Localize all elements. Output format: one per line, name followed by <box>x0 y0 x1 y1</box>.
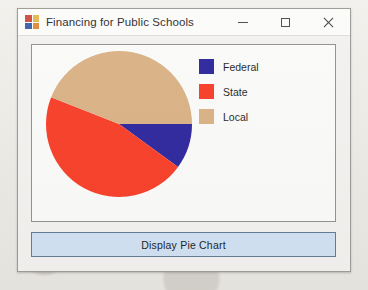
close-icon <box>323 17 334 28</box>
legend-swatch-local <box>199 109 214 124</box>
title-bar: Financing for Public Schools <box>18 9 350 36</box>
legend-label-local: Local <box>223 111 248 123</box>
maximize-button[interactable] <box>264 9 307 35</box>
display-pie-chart-button[interactable]: Display Pie Chart <box>31 232 336 257</box>
legend-label-state: State <box>223 86 248 98</box>
pie-slice-group <box>46 51 192 197</box>
minimize-icon <box>238 22 248 23</box>
visual-studio-forms-icon <box>25 15 39 29</box>
chart-panel: Federal State Local <box>31 44 336 222</box>
maximize-icon <box>281 18 290 27</box>
client-area: Federal State Local Display Pie Chart <box>18 36 350 271</box>
legend-swatch-federal <box>199 59 214 74</box>
application-window: Financing for Public Schools Federal <box>17 8 351 272</box>
legend-item-federal: Federal <box>199 54 309 79</box>
legend-label-federal: Federal <box>223 61 259 73</box>
pie-chart <box>45 50 193 198</box>
window-controls <box>221 9 350 35</box>
legend-item-local: Local <box>199 104 309 129</box>
legend-swatch-state <box>199 84 214 99</box>
window-title: Financing for Public Schools <box>46 16 194 28</box>
legend-item-state: State <box>199 79 309 104</box>
chart-legend: Federal State Local <box>199 54 309 129</box>
minimize-button[interactable] <box>221 9 264 35</box>
close-button[interactable] <box>307 9 350 35</box>
